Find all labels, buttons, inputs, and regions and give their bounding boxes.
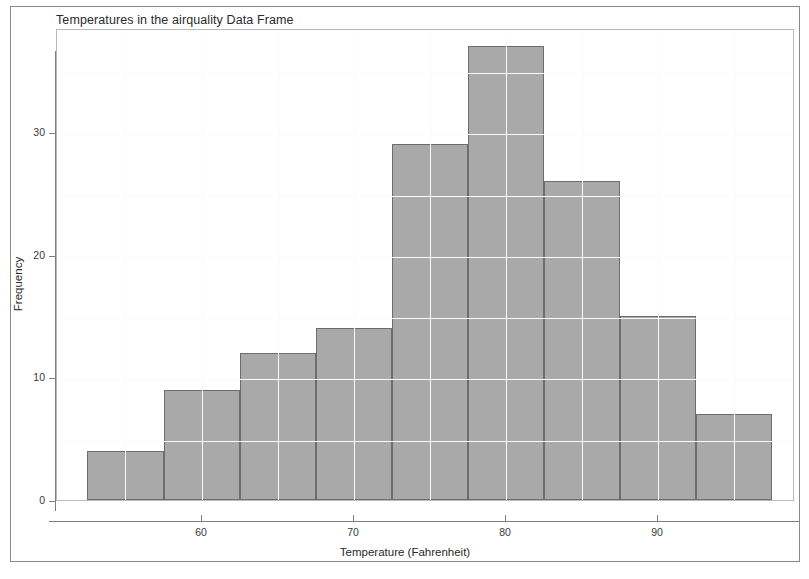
y-axis-title: Frequency [6, 7, 30, 561]
gridline-vertical [354, 30, 355, 500]
x-tick-label: 90 [651, 526, 663, 538]
plot-window-inner: Temperatures in the airquality Data Fram… [11, 7, 799, 561]
x-tick-label: 60 [195, 526, 207, 538]
y-tick-mark [49, 501, 56, 502]
x-tick-mark [353, 515, 354, 522]
gridline-vertical [506, 30, 507, 500]
y-axis-line [55, 51, 56, 511]
gridline-vertical [278, 30, 279, 500]
plot-window: Temperatures in the airquality Data Fram… [10, 6, 800, 562]
gridline-horizontal [57, 257, 793, 258]
y-axis-title-text: Frequency [12, 257, 24, 311]
x-tick-mark [505, 515, 506, 522]
plot-panel [56, 29, 794, 501]
gridline-vertical [658, 30, 659, 500]
gridline-horizontal [57, 196, 793, 197]
chart-title: Temperatures in the airquality Data Fram… [56, 13, 294, 27]
x-axis-line [49, 521, 799, 522]
y-tick-mark [49, 378, 56, 379]
y-tick-mark [49, 256, 56, 257]
x-axis-title: Temperature (Fahrenheit) [11, 546, 799, 558]
gridline-vertical [430, 30, 431, 500]
gridline-horizontal [57, 379, 793, 380]
gridline-vertical [202, 30, 203, 500]
gridline-horizontal [57, 502, 793, 503]
gridline-vertical [125, 30, 126, 500]
gridline-horizontal [57, 441, 793, 442]
histogram-bars [57, 30, 793, 500]
x-tick-mark [657, 515, 658, 522]
gridline-horizontal [57, 134, 793, 135]
y-tick-mark [49, 133, 56, 134]
x-tick-mark [201, 515, 202, 522]
gridline-vertical [734, 30, 735, 500]
x-tick-label: 70 [347, 526, 359, 538]
gridline-vertical [582, 30, 583, 500]
x-tick-label: 80 [499, 526, 511, 538]
gridline-horizontal [57, 73, 793, 74]
gridline-horizontal [57, 318, 793, 319]
